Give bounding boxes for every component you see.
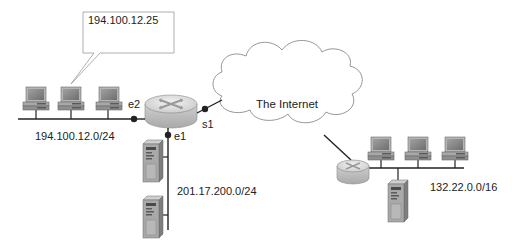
- left-network-label: 194.100.12.0/24: [35, 131, 115, 142]
- internet-label: The Internet: [256, 99, 318, 111]
- left-lan-segment: [18, 110, 135, 119]
- workstation-icon: [58, 87, 84, 110]
- router-icon: [145, 95, 197, 128]
- workstation-icon: [442, 137, 468, 160]
- interface-s1-label: s1: [202, 119, 214, 130]
- network-diagram: [0, 0, 512, 247]
- router-icon: [337, 160, 369, 184]
- server-icon: [143, 140, 163, 182]
- host-ip-label: 194.100.12.25: [88, 15, 158, 26]
- interface-e1-label: e1: [174, 131, 186, 142]
- right-network-label: 132.22.0.0/16: [430, 182, 497, 193]
- workstation-icon: [96, 87, 122, 110]
- workstation-icon: [368, 137, 394, 160]
- server-network-label: 201.17.200.0/24: [177, 186, 257, 197]
- workstation-icon: [405, 137, 431, 160]
- s1-port-dot: [202, 106, 208, 112]
- interface-e2-label: e2: [128, 99, 140, 110]
- right-lan-segment: [367, 160, 464, 182]
- workstation-icon: [23, 87, 49, 110]
- e1-port-dot: [165, 132, 171, 138]
- server-icon: [143, 196, 163, 238]
- server-icon: [388, 180, 408, 222]
